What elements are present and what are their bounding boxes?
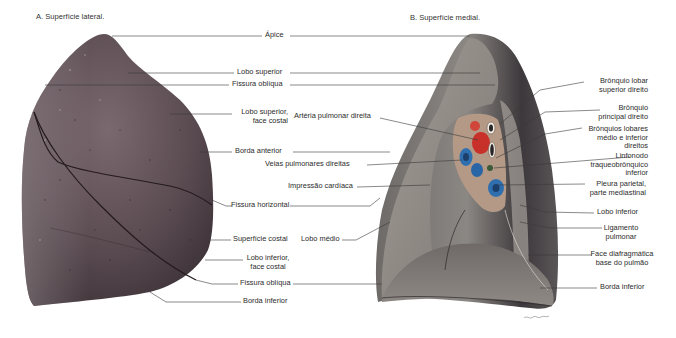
label-line: face costal [243, 263, 293, 272]
label-borda-inferior-b: Borda inferior [600, 283, 644, 292]
label-lobo-medio: Lobo médio [301, 235, 340, 244]
label-line: direitos [576, 142, 648, 151]
label-borda-inferior-a: Borda inferior [243, 297, 287, 306]
label-line: parte mediastinal [576, 189, 646, 198]
label-lobo-superior: Lobo superior [237, 68, 282, 77]
lateral-lung [22, 34, 213, 306]
label-ligamento-pulmonar: Ligamento pulmonar [598, 224, 644, 241]
label-superficie-costal: Superfície costal [233, 235, 288, 244]
label-pleura-parietal: Pleura parietal, parte mediastinal [576, 180, 646, 197]
panel-a-title: A. Superfície lateral. [36, 12, 104, 21]
label-line: inferior [576, 169, 648, 178]
label-line: pulmonar [598, 233, 644, 242]
label-bronquio-lobar-superior-direito: Brônquio lobar superior direito [580, 77, 648, 94]
label-apice: Ápice [265, 31, 284, 40]
label-lobo-superior-face-costal: Lobo superior, face costal [234, 108, 288, 125]
panel-b-title: B. Superfície medial. [410, 13, 480, 22]
label-fissura-horizontal: Fissura horizontal [231, 201, 289, 210]
label-line: superior direito [580, 86, 648, 95]
label-veias-pulmonares-direitas: Veias pulmonares direitas [265, 160, 350, 169]
label-linfonodo-traqueobronquico-inferior: Linfonodo traqueobrônquico inferior [576, 152, 648, 178]
label-impressao-cardiaca: Impressão cardíaca [288, 182, 353, 191]
label-fissura-obliqua-top: Fissura oblíqua [232, 80, 283, 89]
medial-lung [376, 34, 558, 318]
label-line: base do pulmão [590, 259, 654, 268]
label-line: principal direito [580, 113, 648, 122]
label-lobo-inferior: Lobo inferior [597, 208, 638, 217]
label-fissura-obliqua-bottom: Fissura oblíqua [240, 279, 291, 288]
label-arteria-pulmonar-direita: Artéria pulmonar direita [294, 112, 371, 121]
anatomy-figure: A. Superfície lateral. B. Superfície med… [0, 0, 676, 338]
lung-illustrations [0, 0, 676, 338]
label-borda-anterior: Borda anterior [235, 147, 282, 156]
label-face-diafragmatica: Face diafragmática base do pulmão [590, 250, 654, 267]
label-line: face costal [234, 117, 288, 126]
label-bronquios-lobares-medio-inferior: Brônquios lobares médio e inferior direi… [576, 125, 648, 151]
label-lobo-inferior-face-costal: Lobo inferior, face costal [243, 254, 293, 271]
label-bronquio-principal-direito: Brônquio principal direito [580, 104, 648, 121]
